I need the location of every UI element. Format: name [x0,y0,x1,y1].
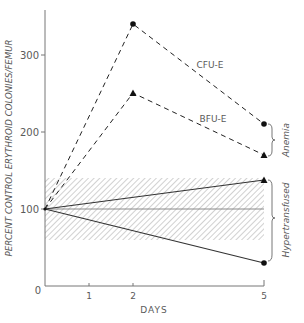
x-tick-label-2: 2 [130,291,136,301]
x-axis-title: DAYS [140,305,167,315]
marker-triangle-bfu-e-day2 [130,90,137,97]
marker-circle-cfu-e-day5 [261,121,267,127]
chart: 300 200 100 0 1 2 5 DAYS PERCENT CONTROL… [0,0,304,323]
brace-hypertransfused [268,180,275,261]
brace-label-anemia: Anemia [281,123,291,158]
marker-circle-hyper-day5 [261,260,267,266]
y-tick-label-300: 300 [20,50,39,61]
brace-label-hypertransfused: Hypertransfused [281,182,291,257]
x-tick-label-1: 1 [86,291,92,301]
brace-anemia [268,124,275,156]
label-cfu-e: CFU-E [197,60,224,70]
y-tick-label-200: 200 [20,127,39,138]
x-tick-label-5: 5 [261,291,267,301]
y-tick-label-100: 100 [20,204,39,215]
origin-label: 0 [35,285,41,296]
marker-triangle-bfu-e-day5 [261,152,268,159]
y-axis-title: PERCENT CONTROL ERYTHROID COLONIES/FEMUR [4,40,14,257]
marker-origin [43,207,46,210]
label-bfu-e: BFU-E [200,114,227,124]
marker-circle-cfu-e-day2 [130,21,136,27]
